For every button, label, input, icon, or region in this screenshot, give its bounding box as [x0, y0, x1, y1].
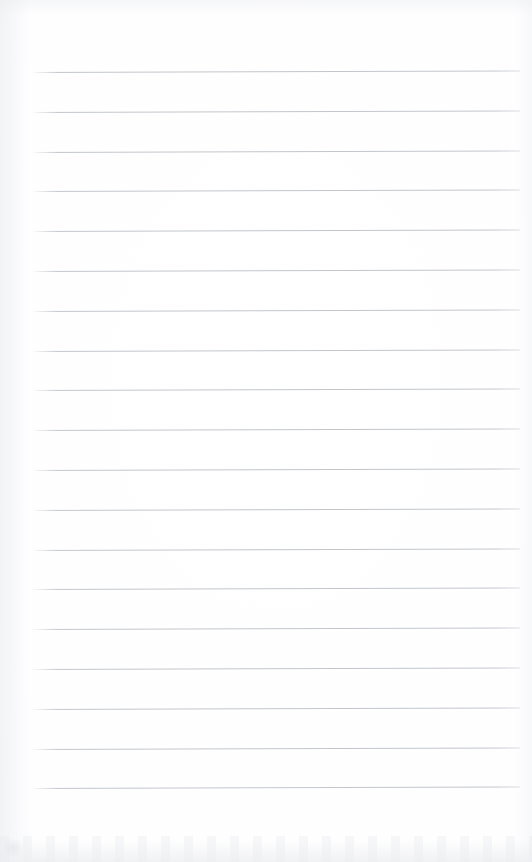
writing-line [33, 471, 520, 510]
writing-line [33, 232, 520, 271]
writing-line [33, 431, 520, 470]
writing-line [33, 272, 520, 311]
writing-line [33, 33, 520, 72]
scanned-page [0, 0, 532, 862]
writing-line [33, 352, 520, 391]
writing-line [33, 391, 520, 430]
writing-line [33, 670, 520, 709]
writing-line [33, 551, 520, 590]
writing-line [33, 73, 520, 112]
writing-line [33, 590, 520, 629]
writing-line [33, 710, 520, 749]
writing-line [33, 511, 520, 550]
writing-line [33, 192, 520, 231]
writing-line [33, 750, 520, 789]
writing-line [33, 630, 520, 669]
writing-line [33, 312, 520, 351]
writing-line [33, 113, 520, 152]
writing-line [33, 153, 520, 192]
